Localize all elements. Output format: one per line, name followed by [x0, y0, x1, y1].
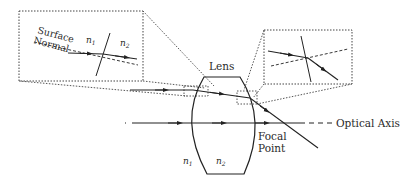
right-inset — [264, 30, 352, 84]
left-inset: Surface Normal n1 n2 — [19, 11, 143, 81]
lens-label: Lens — [209, 60, 234, 72]
n1-inset-label: n1 — [86, 35, 96, 46]
lens-diagram: Surface Normal n1 n2 Lens — [0, 0, 404, 183]
surface-normal-line — [271, 49, 348, 66]
n2-label: n2 — [216, 156, 226, 167]
n1-label: n1 — [183, 156, 193, 167]
focal-label: Focal — [258, 130, 287, 142]
point-label: Point — [258, 142, 286, 154]
optical-axis-label: Optical Axis — [336, 117, 400, 129]
n2-inset-label: n2 — [120, 38, 130, 49]
upper-ray — [130, 90, 318, 148]
optical-axis: Optical Axis — [125, 117, 400, 129]
